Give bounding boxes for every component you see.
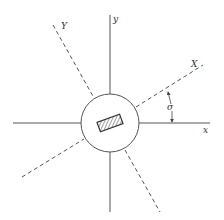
- rotated-y-axis-top: [53, 25, 94, 98]
- label-X: X: [190, 59, 198, 69]
- label-y: y: [112, 14, 119, 24]
- label-sigma: σ: [167, 102, 174, 112]
- rotated-x-axis-right: [136, 65, 203, 107]
- rotated-x-axis-left: [22, 139, 84, 177]
- rotated-y-axis-bottom: [125, 150, 160, 212]
- axes-diagram: y Y X x σ: [0, 0, 224, 220]
- label-Y: Y: [61, 21, 68, 31]
- label-x: x: [203, 125, 208, 135]
